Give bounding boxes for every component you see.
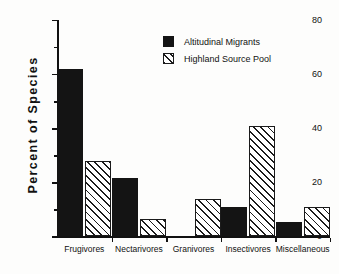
chart-legend: Altitudinal Migrants Highland Source Poo…	[163, 33, 271, 67]
x-axis-line	[57, 236, 330, 238]
solid-swatch-icon	[163, 36, 174, 47]
bar-insectivores-highland-source-pool	[249, 126, 275, 237]
bar-nectarivores-altitudinal-migrants	[112, 178, 138, 236]
y-axis-title: Percent of Species	[26, 30, 40, 220]
x-tick	[275, 238, 276, 242]
y-tick-0	[52, 236, 57, 237]
legend-item-altitudinal-migrants: Altitudinal Migrants	[163, 33, 271, 50]
bar-insectivores-altitudinal-migrants	[221, 207, 247, 237]
y-tick-80	[52, 20, 57, 21]
y-tick-label: 80	[312, 15, 322, 25]
x-tick	[112, 238, 113, 242]
bar-chart-figure: Percent of Species 020406080 FrugivoresN…	[0, 0, 339, 274]
y-minor-tick-70	[54, 47, 57, 48]
x-category-label-miscellaneous: Miscellaneous	[276, 244, 330, 254]
x-category-label-nectarivores: Nectarivores	[115, 244, 163, 254]
x-category-label-granivores: Granivores	[173, 244, 215, 254]
y-tick-label: 40	[312, 123, 322, 133]
y-tick-40	[52, 128, 57, 129]
x-tick	[221, 238, 222, 242]
bar-granivores-highland-source-pool	[195, 199, 221, 237]
y-tick-label: 60	[312, 69, 322, 79]
y-tick-60	[52, 74, 57, 75]
legend-label: Highland Source Pool	[184, 54, 271, 64]
hatched-swatch-icon	[163, 53, 174, 64]
x-tick	[330, 238, 331, 242]
y-tick-label: 20	[312, 177, 322, 187]
x-tick	[166, 238, 167, 242]
x-category-label-insectivores: Insectivores	[225, 244, 270, 254]
legend-label: Altitudinal Migrants	[184, 37, 260, 47]
y-tick-20	[52, 182, 57, 183]
legend-item-highland-source-pool: Highland Source Pool	[163, 50, 271, 67]
bar-miscellaneous-altitudinal-migrants	[276, 222, 302, 237]
bar-frugivores-highland-source-pool	[85, 161, 111, 237]
bar-frugivores-altitudinal-migrants	[57, 69, 83, 237]
bar-nectarivores-highland-source-pool	[140, 219, 166, 237]
x-category-label-frugivores: Frugivores	[64, 244, 104, 254]
bar-miscellaneous-highland-source-pool	[304, 207, 330, 237]
